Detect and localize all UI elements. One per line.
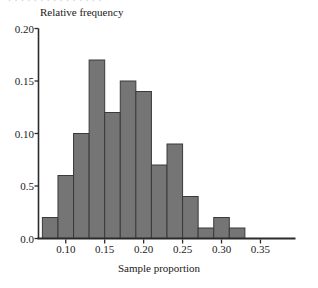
histogram-bar	[198, 228, 214, 239]
y-axis-tick-label: 0.10	[2, 129, 34, 140]
histogram-bar	[89, 60, 105, 239]
x-axis-tick-label: 0.25	[163, 244, 203, 255]
histogram-bar	[105, 113, 121, 239]
histogram-figure: · · · · · · · · · · · · · · · Relative f…	[0, 0, 318, 288]
histogram-bar	[136, 92, 152, 239]
x-axis-tick-label: 0.15	[85, 244, 125, 255]
y-axis-tick-label: 0.0	[2, 234, 34, 245]
y-axis-tick-label: 0.20	[2, 24, 34, 35]
x-axis-tick-label: 0.20	[124, 244, 164, 255]
histogram-bar	[167, 144, 183, 239]
x-axis-title: Sample proportion	[0, 262, 318, 274]
histogram-bar	[214, 218, 230, 239]
y-axis-tick-label: 0.15	[2, 76, 34, 87]
x-axis-tick-label: 0.30	[202, 244, 242, 255]
y-axis-tick-label: 0.5	[2, 181, 34, 192]
histogram-bar	[229, 228, 245, 239]
x-axis-tick-label: 0.35	[240, 244, 280, 255]
histogram-bar	[74, 134, 90, 239]
histogram-bar	[120, 81, 136, 239]
histogram-bar	[183, 197, 199, 239]
histogram-bar	[42, 218, 58, 239]
x-axis-tick-label: 0.10	[46, 244, 86, 255]
y-axis-tick-labels: 0.00.50.100.150.20	[0, 0, 34, 288]
histogram-bar	[58, 176, 74, 239]
histogram-bar	[151, 165, 167, 239]
